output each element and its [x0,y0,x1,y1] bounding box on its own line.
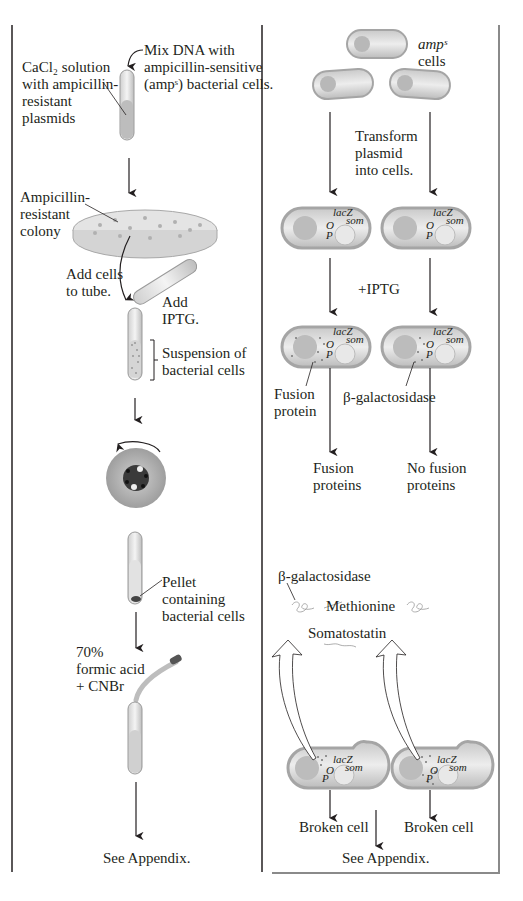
gene-p-5: P [322,773,329,784]
centrifuge-icon [106,442,166,508]
gene-som-4: som [446,334,464,345]
beta-gal-label: β-galactosidase [343,389,436,406]
gene-p-2: P [426,230,433,241]
mix-dna-label: Mix DNA with ampicillin-sensitive (ampˢ)… [144,42,273,93]
fusion-protein-label: Fusion protein [274,386,317,420]
gene-p-4: P [426,349,433,360]
gene-p-3: P [326,349,333,360]
panel-borders [12,25,500,873]
gene-p-1: P [326,230,333,241]
gene-p-6: P [426,773,433,784]
gene-som-1: som [346,215,364,226]
add-cells-label: Add cells to tube. [66,266,123,300]
diagram-artwork [0,0,523,901]
add-iptg-label: Add IPTG. [162,294,199,328]
see-appendix-left: See Appendix. [103,850,191,867]
tube-pellet-icon [128,532,162,604]
transform-label: Transform plasmid into cells. [355,128,418,179]
no-fusion-label: No fusion proteins [407,460,467,494]
broken-cell-right-label: Broken cell [404,819,474,836]
tube-formic-icon [128,702,142,774]
colony-label: Ampicillin- resistant colony [20,189,90,240]
formic-acid-label: 70% formic acid + CNBr [76,644,145,695]
gene-som-6: som [449,762,467,773]
see-appendix-right: See Appendix. [342,850,430,867]
cacl2-label: CaCl₂ solution with ampicillin- resistan… [22,59,118,127]
release-arrows [272,640,420,760]
broken-cell-left-label: Broken cell [299,819,369,836]
gene-som-3: som [346,334,364,345]
pellet-label: Pellet containing bacterial cells [162,574,245,625]
suspension-label: Suspension of bacterial cells [162,345,247,379]
iptg-label: +IPTG [358,281,400,298]
tube-suspension-icon [128,308,158,380]
methionine-label: Methionine [326,598,395,615]
somatostatin-label: Somatostatin [308,625,386,642]
petri-dish-icon [73,204,217,258]
beta-gal-top-label: β-galactosidase [278,568,371,585]
amps-cells-label: ampˢ cells [418,36,447,70]
fusion-proteins-label: Fusion proteins [313,460,361,494]
gene-som-5: som [345,762,363,773]
gene-som-2: som [446,215,464,226]
